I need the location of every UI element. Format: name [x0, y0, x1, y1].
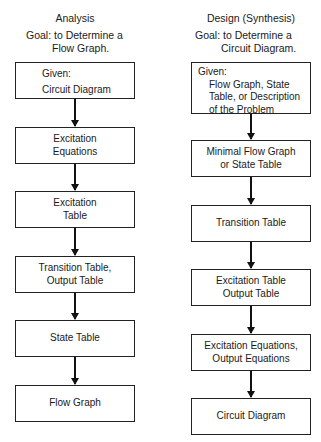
arrow-down-icon: [74, 357, 76, 384]
design-goal-line2: Circuit Diagram.: [195, 42, 296, 55]
analysis-goal-line1: Goal: to Determine a: [26, 29, 123, 42]
step-text-line2: Table: [63, 210, 87, 223]
design-step-minimal-flow-graph: Minimal Flow Graph or State Table: [191, 140, 311, 177]
step-text-line1: Excitation: [53, 197, 96, 210]
analysis-step-state-table: State Table: [15, 320, 135, 357]
arrow-down-icon: [74, 228, 76, 255]
step-text-line1: Excitation: [53, 133, 96, 146]
step-text-line1: State Table: [50, 332, 100, 345]
step-text-line2: Equations: [53, 146, 97, 159]
design-given-line2: Table, or Description: [198, 91, 300, 104]
design-given-line3: of the Problem: [198, 104, 274, 117]
analysis-given-box: Given: Circuit Diagram: [15, 62, 135, 99]
design-title: Design (Synthesis): [191, 12, 311, 24]
step-text-line2: Output Table: [47, 275, 104, 288]
analysis-given-label: Given:: [42, 68, 71, 81]
design-given-line1: Flow Graph, State: [198, 79, 290, 92]
arrow-down-icon: [250, 177, 252, 204]
design-given-label: Given:: [198, 66, 227, 79]
design-given-box: Given: Flow Graph, State Table, or Descr…: [191, 62, 311, 114]
design-step-excitation-equations: Excitation Equations, Output Equations: [191, 334, 311, 371]
step-text-line1: Minimal Flow Graph: [207, 146, 296, 159]
arrow-down-icon: [250, 371, 252, 397]
analysis-goal: Goal: to Determine a Flow Graph.: [26, 29, 123, 55]
analysis-step-transition-table: Transition Table, Output Table: [15, 256, 135, 293]
arrow-down-icon: [74, 99, 76, 126]
design-step-transition-table: Transition Table: [191, 205, 311, 242]
analysis-step-excitation-table: Excitation Table: [15, 191, 135, 228]
step-text-line1: Excitation Equations,: [204, 340, 297, 353]
step-text-line1: Transition Table,: [39, 262, 112, 275]
design-step-excitation-table: Excitation Table Output Table: [191, 269, 311, 306]
step-text-line2: or State Table: [220, 159, 282, 172]
step-text-line2: Output Equations: [212, 353, 289, 366]
analysis-step-flow-graph: Flow Graph: [15, 385, 135, 422]
step-text-line1: Circuit Diagram: [217, 410, 286, 423]
analysis-goal-line2: Flow Graph.: [26, 42, 123, 55]
analysis-step-excitation-equations: Excitation Equations: [15, 127, 135, 164]
analysis-title: Analysis: [15, 12, 135, 24]
design-goal: Goal: to Determine a Circuit Diagram.: [195, 29, 296, 55]
arrow-down-icon: [74, 164, 76, 190]
analysis-given-value: Circuit Diagram: [42, 84, 111, 97]
design-goal-line1: Goal: to Determine a: [195, 29, 296, 42]
arrow-down-icon: [250, 114, 252, 139]
design-step-circuit-diagram: Circuit Diagram: [191, 398, 311, 435]
step-text-line1: Excitation Table: [216, 275, 286, 288]
arrow-down-icon: [74, 293, 76, 319]
arrow-down-icon: [250, 306, 252, 333]
step-text-line1: Transition Table: [216, 217, 286, 230]
step-text-line2: Output Table: [223, 288, 280, 301]
step-text-line1: Flow Graph: [49, 397, 101, 410]
arrow-down-icon: [250, 242, 252, 268]
